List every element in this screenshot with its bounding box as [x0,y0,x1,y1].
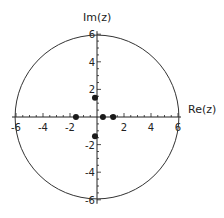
axes: -6-4-2246-6-4-2246 [11,29,181,206]
y-tick-label: -4 [85,167,95,178]
y-tick-label: -2 [85,140,95,151]
data-point [92,133,98,139]
y-axis-label: Im(z) [83,11,111,24]
y-tick-label: 2 [89,84,95,95]
data-point [92,95,98,101]
x-tick-label: -4 [38,122,48,133]
x-axis-label: Re(z) [188,103,216,116]
x-tick-label: -2 [65,122,75,133]
x-tick-label: 2 [121,122,127,133]
complex-plane-plot: -6-4-2246-6-4-2246 Re(z) Im(z) [0,0,224,218]
data-point [110,114,116,120]
data-point [100,114,106,120]
y-tick-label: -6 [85,195,95,206]
data-point [73,114,79,120]
y-tick-label: 4 [89,57,95,68]
x-tick-label: 4 [148,122,154,133]
